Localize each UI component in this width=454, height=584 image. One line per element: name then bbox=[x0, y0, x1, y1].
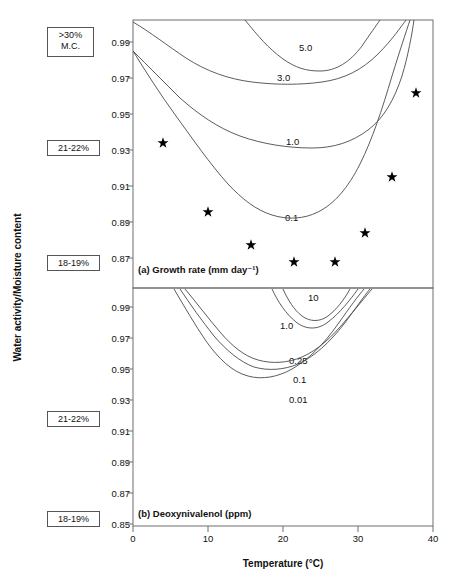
contour-b-001 bbox=[174, 289, 364, 378]
panel-a-contours bbox=[133, 20, 414, 218]
panel-b-contours bbox=[174, 289, 372, 378]
panel-a-frame bbox=[133, 20, 433, 288]
contour-b-025 bbox=[185, 289, 372, 362]
panel-b-yticks bbox=[127, 307, 133, 524]
figure-root: Water activity/Moisture content >30% M.C… bbox=[0, 0, 454, 584]
star-marker bbox=[246, 239, 257, 249]
star-marker bbox=[330, 256, 341, 266]
panel-a-yticks bbox=[127, 42, 133, 258]
panel-b-frame bbox=[133, 288, 433, 526]
xticks bbox=[133, 526, 433, 532]
contour-b-10 bbox=[283, 289, 350, 321]
contour-a-5 bbox=[245, 20, 380, 71]
contour-a-3 bbox=[133, 20, 406, 84]
star-marker bbox=[360, 227, 371, 237]
star-marker bbox=[411, 87, 422, 97]
star-marker bbox=[387, 171, 398, 181]
plot-svg bbox=[0, 0, 454, 584]
panel-a-markers bbox=[158, 87, 422, 266]
contour-b-01 bbox=[180, 289, 370, 369]
star-marker bbox=[203, 206, 214, 216]
star-marker bbox=[158, 137, 169, 147]
star-marker bbox=[289, 256, 300, 266]
